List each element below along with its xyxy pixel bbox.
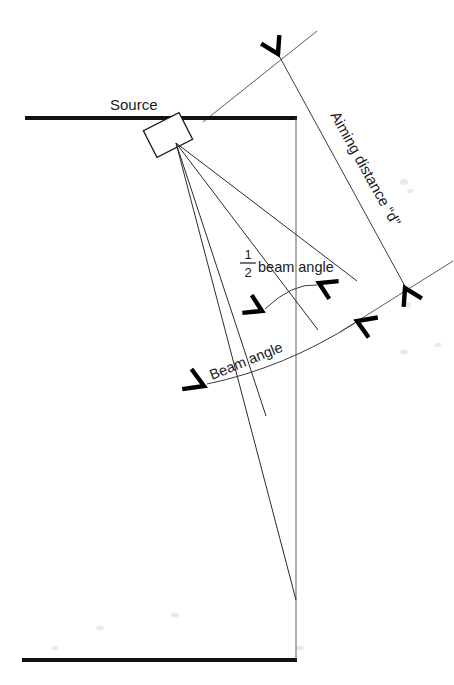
arrow-half-beam-left-icon: [242, 295, 266, 320]
arrow-beam-right-icon: [353, 311, 378, 338]
aiming-distance-label-text: Aiming distance “d”: [327, 108, 404, 229]
aiming-distance-label: Aiming distance “d”: [327, 108, 404, 229]
beam-geometry-diagram: Source Aiming distance “d” 1 2 beam angl…: [0, 0, 454, 685]
half-beam-fraction-numerator: 1: [244, 247, 251, 262]
beam-angle-label-text: Beam angle: [207, 339, 285, 383]
half-beam-fraction-denominator: 2: [244, 265, 251, 280]
arrow-beam-left-icon: [182, 369, 208, 397]
half-beam-angle-arc: [265, 285, 317, 309]
beam-ray-fan: [176, 143, 357, 600]
source-label: Source: [110, 96, 158, 113]
arrow-aiming-upper-icon: [261, 34, 287, 58]
extension-line-upper: [203, 31, 317, 122]
beam-ray-mid-right: [176, 143, 318, 330]
diagram-canvas: Source Aiming distance “d” 1 2 beam angl…: [0, 0, 454, 685]
arrow-half-beam-right-icon: [315, 274, 339, 299]
half-beam-angle-label-text: beam angle: [258, 259, 334, 275]
beam-angle-label: Beam angle: [207, 339, 285, 383]
